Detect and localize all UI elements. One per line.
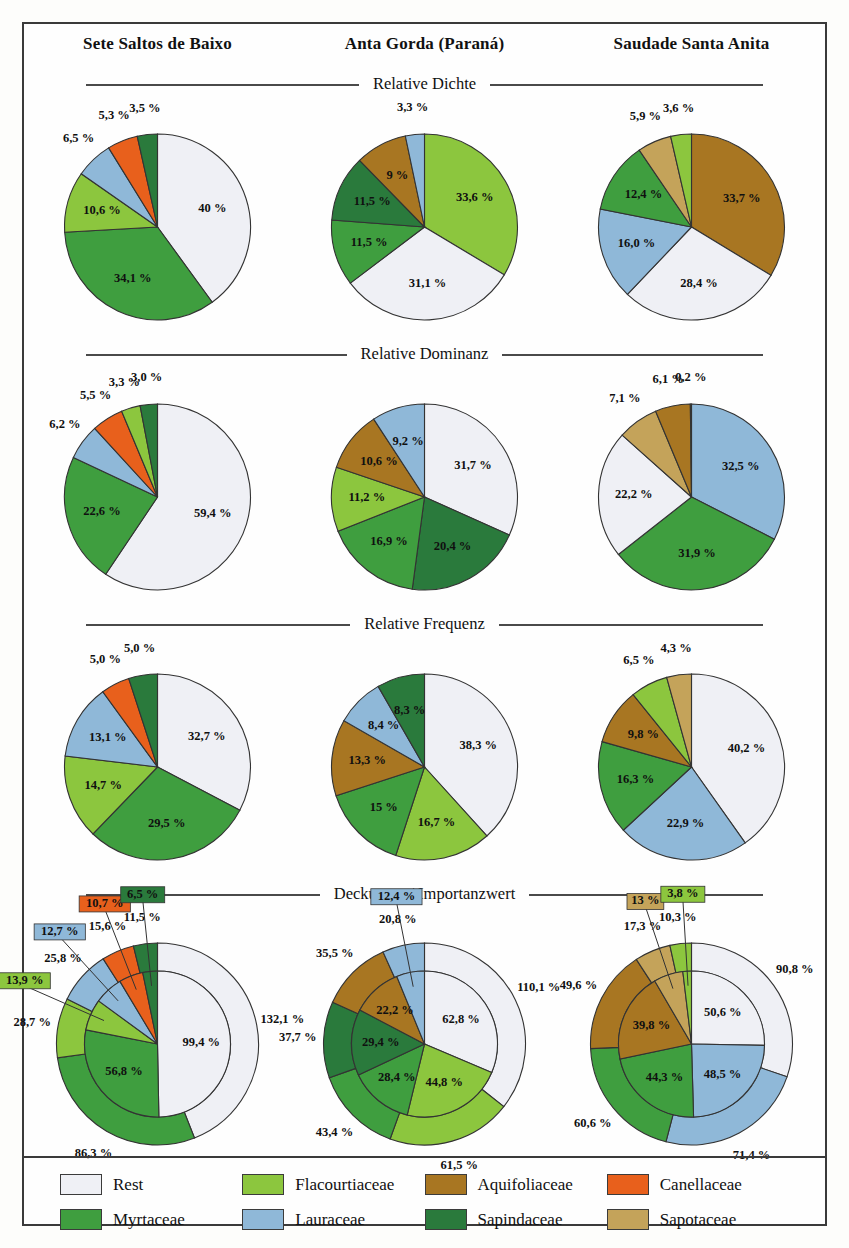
legend-label-canellaceae: Canellaceae xyxy=(660,1175,742,1195)
pie-chart-canvas: 40,2 %22,9 %16,3 %9,8 %6,5 %4,3 % xyxy=(558,634,825,884)
pie-slice-label: 31,9 % xyxy=(678,546,716,560)
pie-slice-label: 16,3 % xyxy=(617,772,655,786)
inner-pie-label: 28,4 % xyxy=(378,1070,416,1084)
pie-slice-label: 28,4 % xyxy=(680,276,718,290)
legend-swatch-aquifoliaceae xyxy=(425,1174,467,1195)
outer-ring-label: 25,8 % xyxy=(44,951,82,965)
pie-slice-label: 10,6 % xyxy=(83,203,121,217)
band-rule-left xyxy=(86,624,350,626)
pie-slice-label: 16,7 % xyxy=(418,815,456,829)
pie-slice-label: 15 % xyxy=(370,800,398,814)
outer-ring-label: 60,6 % xyxy=(574,1116,612,1130)
pie-slice-label: 22,6 % xyxy=(83,504,121,518)
pie-slice-label: 3,5 % xyxy=(129,101,160,115)
inner-pie-label: 39,8 % xyxy=(633,1018,671,1032)
pie-slice-label: 6,2 % xyxy=(49,417,80,431)
legend-label-sapotaceae: Sapotaceae xyxy=(660,1210,736,1230)
inner-pie-label: 29,4 % xyxy=(362,1035,400,1049)
legend-label-lauraceae: Lauraceae xyxy=(295,1210,365,1230)
pie-slice-label: 32,7 % xyxy=(188,729,226,743)
outer-ring-label: 28,7 % xyxy=(13,1015,51,1029)
pie-slice-label: 9,8 % xyxy=(628,727,659,741)
pie-chart-canvas: 59,4 %22,6 %6,2 %5,5 %3,3 %3,0 % xyxy=(24,364,291,614)
pie-slice-label: 11,2 % xyxy=(348,490,385,504)
outer-ring-label: 90,8 % xyxy=(776,962,814,976)
section-band-0: Relative Dichte xyxy=(24,74,825,94)
outer-ring-label: 61,5 % xyxy=(441,1158,479,1172)
band-rule-left xyxy=(86,84,359,86)
band-rule-right xyxy=(502,354,763,356)
outer-ring-label: 20,8 % xyxy=(379,912,417,926)
pie-slice-label: 59,4 % xyxy=(194,506,232,520)
outer-ring-label: 37,7 % xyxy=(279,1030,317,1044)
pie-slice-label: 13,1 % xyxy=(89,730,127,744)
chart-row-deckungs-importanzwert: 132,1 %86,3 %28,7 %25,8 %15,6 %11,5 %99,… xyxy=(24,904,825,1164)
legend-swatch-flacourtiaceae xyxy=(242,1174,284,1195)
outer-ring-label: 71,4 % xyxy=(733,1148,771,1162)
legend-item-aquifoliaceae: Aquifoliaceae xyxy=(425,1174,607,1195)
pie-slice-label: 33,6 % xyxy=(456,190,494,204)
pie-slice-label: 22,9 % xyxy=(667,816,705,830)
inner-pie-label: 6,5 % xyxy=(127,887,158,901)
pie-chart-canvas: 31,7 %20,4 %16,9 %11,2 %10,6 %9,2 % xyxy=(291,364,558,614)
band-rule-right xyxy=(499,624,763,626)
band-rule-right xyxy=(490,84,763,86)
chart-row-relative-dominanz: 59,4 %22,6 %6,2 %5,5 %3,3 %3,0 %31,7 %20… xyxy=(24,364,825,614)
section-title-1: Relative Dominanz xyxy=(357,344,493,364)
inner-pie-label: 48,5 % xyxy=(704,1067,742,1081)
legend: Rest Flacourtiaceae Aquifoliaceae Canell… xyxy=(24,1174,825,1230)
outer-ring-label: 17,3 % xyxy=(624,919,662,933)
inner-pie-label: 3,8 % xyxy=(667,886,698,900)
pie-chart-9: 132,1 %86,3 %28,7 %25,8 %15,6 %11,5 %99,… xyxy=(24,904,291,1164)
pie-chart-canvas: 33,7 %28,4 %16,0 %12,4 %5,9 %3,6 % xyxy=(558,94,825,344)
outer-ring-label: 49,6 % xyxy=(560,978,598,992)
pie-slice-label: 4,3 % xyxy=(660,641,691,655)
pie-chart-3: 59,4 %22,6 %6,2 %5,5 %3,3 %3,0 % xyxy=(24,364,291,614)
section-title-2: Relative Frequenz xyxy=(360,614,489,634)
outer-ring-label: 110,1 % xyxy=(517,980,560,994)
pie-slice-label: 5,0 % xyxy=(124,641,155,655)
pie-slice-label: 8,4 % xyxy=(368,718,399,732)
pie-chart-10: 110,1 %61,5 %43,4 %37,7 %35,5 %20,8 %62,… xyxy=(291,904,558,1164)
pie-chart-canvas: 110,1 %61,5 %43,4 %37,7 %35,5 %20,8 %62,… xyxy=(291,904,558,1164)
pie-slice-label: 5,5 % xyxy=(80,388,111,402)
legend-swatch-myrtaceae xyxy=(60,1209,102,1230)
pie-slice-label: 6,5 % xyxy=(63,131,94,145)
legend-label-myrtaceae: Myrtaceae xyxy=(113,1210,185,1230)
pie-chart-8: 40,2 %22,9 %16,3 %9,8 %6,5 %4,3 % xyxy=(558,634,825,884)
figure-panel: Sete Saltos de Baixo Anta Gorda (Paraná)… xyxy=(22,22,827,1226)
outer-ring-label: 43,4 % xyxy=(316,1125,354,1139)
pie-slice-label: 40 % xyxy=(198,201,226,215)
legend-swatch-lauraceae xyxy=(242,1209,284,1230)
pie-slice-label: 11,5 % xyxy=(351,235,388,249)
outer-ring-label: 10,3 % xyxy=(659,910,697,924)
pie-slice-label: 3,0 % xyxy=(131,370,162,384)
pie-slice-label: 0,2 % xyxy=(675,370,706,384)
inner-pie-label: 13 % xyxy=(631,893,659,907)
legend-item-sapotaceae: Sapotaceae xyxy=(607,1209,789,1230)
pie-chart-canvas: 40 %34,1 %10,6 %6,5 %5,3 %3,5 % xyxy=(24,94,291,344)
inner-pie-label: 12,7 % xyxy=(41,924,79,938)
inner-pie-label: 22,2 % xyxy=(376,1003,414,1017)
legend-swatch-canellaceae xyxy=(607,1174,649,1195)
section-title-0: Relative Dichte xyxy=(369,74,480,94)
pie-chart-canvas: 38,3 %16,7 %15 %13,3 %8,4 %8,3 % xyxy=(291,634,558,884)
pie-chart-canvas: 132,1 %86,3 %28,7 %25,8 %15,6 %11,5 %99,… xyxy=(24,904,291,1164)
column-header-1: Anta Gorda (Paraná) xyxy=(291,34,558,54)
column-header-0: Sete Saltos de Baixo xyxy=(24,34,291,54)
pie-chart-5: 32,5 %31,9 %22,2 %7,1 %6,1 %0,2 % xyxy=(558,364,825,614)
legend-label-flacourtiaceae: Flacourtiaceae xyxy=(295,1175,394,1195)
outer-ring-label: 15,6 % xyxy=(89,919,127,933)
pie-slice-label: 5,9 % xyxy=(630,109,661,123)
pie-slice-label: 3,3 % xyxy=(397,100,428,114)
inner-pie-label: 99,4 % xyxy=(183,1035,221,1049)
pie-chart-4: 31,7 %20,4 %16,9 %11,2 %10,6 %9,2 % xyxy=(291,364,558,614)
section-band-2: Relative Frequenz xyxy=(24,614,825,634)
inner-pie-label: 56,8 % xyxy=(105,1064,143,1078)
pie-slice-label: 3,6 % xyxy=(663,101,694,115)
pie-slice-label: 9 % xyxy=(386,168,408,182)
pie-slice-label: 38,3 % xyxy=(460,738,498,752)
inner-pie-label: 44,3 % xyxy=(646,1070,684,1084)
pie-slice-label: 6,5 % xyxy=(623,653,654,667)
pie-chart-6: 32,7 %29,5 %14,7 %13,1 %5,0 %5,0 % xyxy=(24,634,291,884)
